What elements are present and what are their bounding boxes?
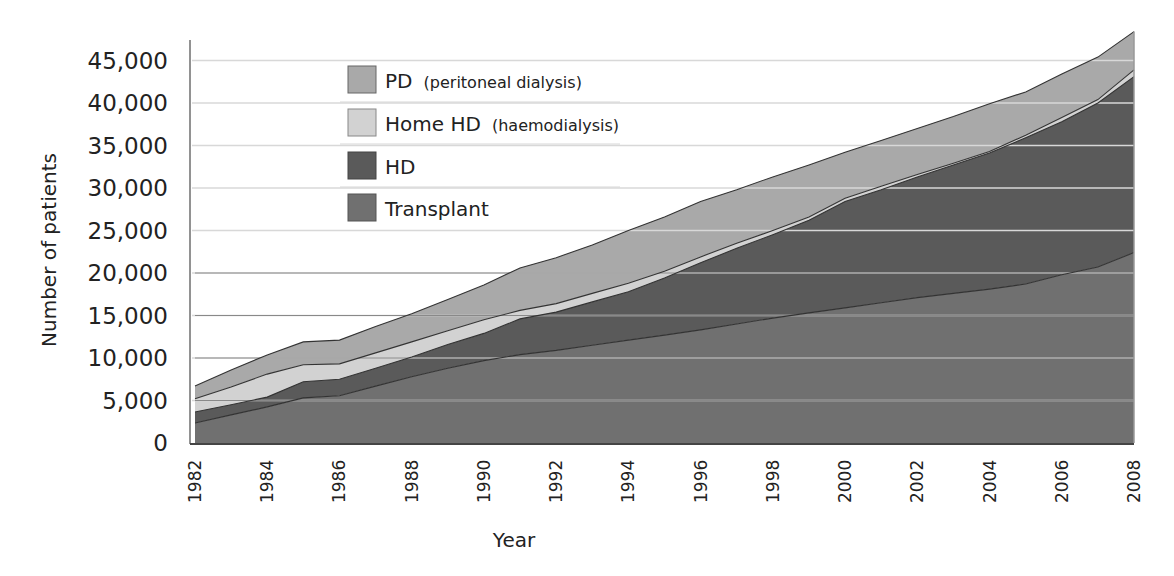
legend-item-home-hd: Home HD (haemodialysis): [348, 109, 619, 136]
legend: PD (peritoneal dialysis) Home HD (haemod…: [340, 66, 620, 221]
y-tick-label: 10,000: [88, 345, 168, 371]
legend-label-hd-main: HD: [385, 155, 415, 179]
x-tick-label: 2002: [907, 460, 927, 503]
x-axis-title: Year: [492, 528, 536, 552]
y-tick-label: 45,000: [88, 48, 168, 74]
y-tick-label: 0: [153, 430, 168, 456]
y-axis-title: Number of patients: [37, 153, 61, 347]
x-tick-label: 2006: [1052, 460, 1072, 503]
y-tick-label: 25,000: [88, 218, 168, 244]
x-tick-label: 1994: [618, 460, 638, 503]
y-axis-tick-labels: 05,00010,00015,00020,00025,00030,00035,0…: [88, 48, 168, 457]
x-tick-label: 1996: [691, 460, 711, 503]
y-tick-label: 15,000: [88, 303, 168, 329]
legend-item-transplant: Transplant: [348, 194, 489, 221]
x-tick-label: 2008: [1124, 460, 1144, 503]
legend-label-home-hd-main: Home HD: [385, 112, 481, 136]
legend-swatch-home-hd: [348, 109, 376, 136]
y-tick-label: 20,000: [88, 260, 168, 286]
x-tick-label: 1982: [185, 460, 205, 503]
x-tick-label: 2000: [835, 460, 855, 503]
x-tick-label: 1998: [763, 460, 783, 503]
x-tick-label: 1992: [546, 460, 566, 503]
legend-swatch-hd: [348, 152, 376, 179]
legend-swatch-transplant: [348, 194, 376, 221]
legend-label-transplant-main: Transplant: [384, 197, 489, 221]
y-tick-label: 35,000: [88, 133, 168, 159]
legend-label-home-hd-sub: (haemodialysis): [492, 116, 619, 135]
legend-label-home-hd: Home HD (haemodialysis): [385, 112, 619, 136]
x-axis-tick-labels: 1982198419861988199019921994199619982000…: [185, 460, 1144, 503]
legend-label-transplant: Transplant: [384, 197, 489, 221]
chart-canvas: 05,00010,00015,00020,00025,00030,00035,0…: [0, 0, 1174, 576]
x-tick-label: 1988: [402, 460, 422, 503]
x-tick-label: 1984: [257, 460, 277, 503]
y-tick-label: 40,000: [88, 90, 168, 116]
x-tick-label: 1986: [329, 460, 349, 503]
legend-item-hd: HD: [348, 152, 415, 179]
legend-label-pd: PD (peritoneal dialysis): [385, 69, 582, 93]
plot-areas: [195, 32, 1134, 443]
y-tick-label: 30,000: [88, 175, 168, 201]
legend-label-hd: HD: [385, 155, 415, 179]
x-tick-label: 1990: [474, 460, 494, 503]
legend-item-pd: PD (peritoneal dialysis): [348, 66, 582, 93]
x-tick-label: 2004: [980, 460, 1000, 503]
legend-swatch-pd: [348, 66, 376, 93]
y-tick-label: 5,000: [102, 388, 168, 414]
legend-label-pd-sub: (peritoneal dialysis): [424, 73, 582, 92]
legend-label-pd-main: PD: [385, 69, 412, 93]
stacked-area-chart: 05,00010,00015,00020,00025,00030,00035,0…: [0, 0, 1174, 576]
